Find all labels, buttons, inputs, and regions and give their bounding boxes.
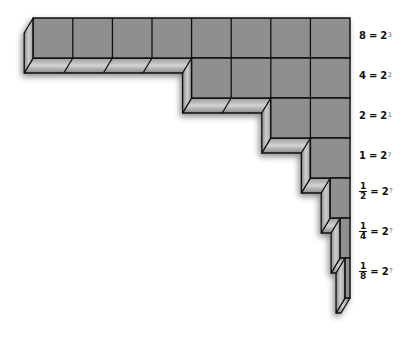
equals-sign: = [370,266,378,277]
label-row-eighth: 1 8 = 2? [359,262,393,281]
label-row-8: 8 = 23 [359,30,392,41]
base: 2 [382,186,389,197]
label-row-1: 1 = 2? [359,150,391,161]
cube-staircase-diagram [0,0,416,342]
equals-sign: = [370,186,378,197]
fraction: 1 2 [359,182,367,201]
equals-sign: = [369,150,377,161]
value: 8 [359,30,366,41]
equals-sign: = [369,110,377,121]
equals-sign: = [369,30,377,41]
base: 2 [380,110,387,121]
equals-sign: = [369,70,377,81]
exponent: ? [389,227,392,235]
fraction: 1 8 [359,262,367,281]
base: 2 [380,70,387,81]
label-row-4: 4 = 22 [359,70,392,81]
value: 1 [359,150,366,161]
exponent: ? [388,151,391,159]
exponent: ? [389,187,392,195]
value: 2 [359,110,366,121]
denominator: 2 [360,192,366,201]
label-row-2: 2 = 21 [359,110,392,121]
denominator: 8 [360,272,366,281]
denominator: 4 [360,232,366,241]
cube-row-front-3 [310,138,350,178]
base: 2 [382,266,389,277]
exponent: ? [389,267,392,275]
cube-row-front-5 [340,218,350,258]
exponent: 1 [388,111,392,119]
exponent: 3 [388,31,392,39]
cube-row-front-4 [330,178,350,218]
fraction: 1 4 [359,222,367,241]
equals-sign: = [370,226,378,237]
cube-row-front-6 [345,258,350,298]
label-row-quarter: 1 4 = 2? [359,222,393,241]
base: 2 [380,150,387,161]
exponent: 2 [388,71,392,79]
base: 2 [382,226,389,237]
base: 2 [380,30,387,41]
label-row-half: 1 2 = 2? [359,182,393,201]
value: 4 [359,70,366,81]
blocks-group [24,18,350,313]
